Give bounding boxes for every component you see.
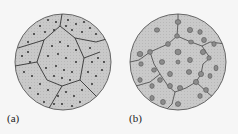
panel-b-circle: [130, 14, 226, 112]
microstructure-diagram: [0, 0, 238, 134]
panel-b-label: (b): [129, 112, 142, 124]
panel-a-label: (a): [7, 112, 19, 124]
panel-a-circle: [15, 14, 111, 110]
